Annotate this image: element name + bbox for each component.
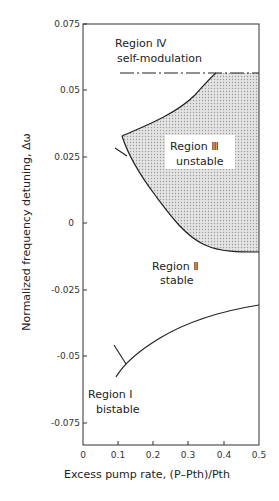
region-4-subtitle: self-modulation (117, 52, 202, 65)
x-tick-label: 0.1 (111, 450, 125, 460)
x-tick-label: 0.3 (181, 450, 195, 460)
region-1-subtitle: bistable (96, 403, 140, 416)
y-tick-label: -0.05 (57, 351, 80, 361)
y-tick-label: 0.075 (54, 19, 80, 29)
x-tick-label: 0.2 (146, 450, 160, 460)
x-tick-label: 0 (80, 450, 86, 460)
region-1-2-spur (114, 345, 126, 364)
y-tick-label: -0.025 (51, 285, 80, 295)
y-tick-label: 0.05 (60, 85, 80, 95)
y-tick-label: -0.075 (51, 418, 80, 428)
phase-diagram-chart: 0.075 0.05 0.025 0 -0.025 -0.05 -0.075 0… (0, 0, 279, 501)
region-2-subtitle: stable (160, 274, 194, 287)
y-axis-title: Normalized frequency detuning, Δω (20, 133, 33, 330)
x-tick-label: 0.5 (252, 450, 266, 460)
region-1-title: Region Ⅰ (88, 388, 132, 401)
region-3-subtitle: unstable (176, 155, 224, 168)
region-1-2-boundary (116, 305, 259, 377)
region-3-title: Region Ⅲ (170, 140, 219, 153)
y-axis (83, 24, 87, 423)
y-tick-label: 0 (68, 218, 74, 228)
y-tick-label: 0.025 (54, 152, 80, 162)
x-axis-title: Excess pump rate, (P–Pth)/Pth (64, 468, 230, 481)
x-axis (118, 441, 224, 445)
region-3-spur (115, 148, 127, 156)
region-4-title: Region Ⅳ (115, 37, 167, 50)
region-2-title: Region Ⅱ (152, 260, 199, 273)
x-tick-label: 0.4 (217, 450, 232, 460)
